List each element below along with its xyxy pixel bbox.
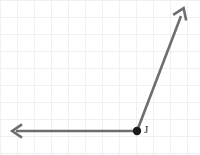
grid-background	[0, 0, 200, 155]
vertex-label-j: J	[144, 124, 148, 135]
angle-diagram-canvas: J	[0, 0, 200, 155]
